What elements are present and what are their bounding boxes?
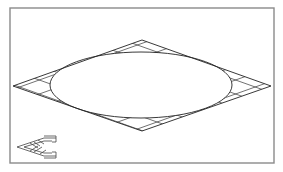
drawing-canvas	[0, 0, 283, 172]
ucs-icon	[17, 136, 56, 158]
